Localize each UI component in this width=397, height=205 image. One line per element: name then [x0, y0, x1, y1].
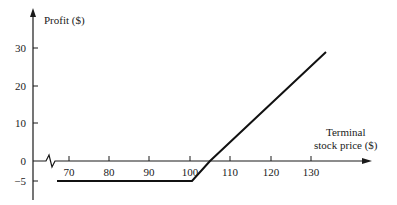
x-tick-120: 120 — [259, 166, 283, 178]
x-tick-100: 100 — [178, 166, 202, 178]
x-axis-label-line2: stock price ($) — [314, 139, 378, 151]
y-axis-arrow-icon — [30, 8, 36, 17]
x-tick-80: 80 — [97, 166, 121, 178]
profit-line — [57, 52, 326, 181]
x-axis-arrow-icon — [362, 158, 372, 164]
x-tick-70: 70 — [57, 166, 81, 178]
y-axis-label: Profit ($) — [44, 14, 85, 26]
y-tick-0: 0 — [4, 155, 26, 167]
y-tick-10: 10 — [4, 117, 26, 129]
x-tick-130: 130 — [299, 166, 323, 178]
x-axis-label-line1: Terminal — [326, 126, 366, 138]
y-tick-20: 20 — [4, 80, 26, 92]
y-tick-30: 30 — [4, 42, 26, 54]
x-tick-90: 90 — [137, 166, 161, 178]
y-tick-minus5: −5 — [4, 175, 26, 187]
x-tick-110: 110 — [218, 166, 242, 178]
